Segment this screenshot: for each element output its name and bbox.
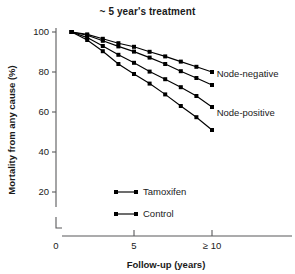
y-tick-label: 60 bbox=[38, 106, 49, 117]
series-line bbox=[72, 32, 212, 130]
chart-tick-labels: 2040608010005≥ 10 bbox=[33, 26, 221, 251]
mortality-line-chart: 2040608010005≥ 10 Node-negativeNode-posi… bbox=[0, 0, 295, 274]
y-tick-label: 100 bbox=[33, 26, 49, 37]
chart-annotations: Node-negativeNode-positive bbox=[217, 68, 279, 118]
series-marker bbox=[132, 50, 136, 54]
series-line bbox=[72, 32, 212, 72]
series-marker bbox=[132, 72, 136, 76]
curve-annotation: Node-negative bbox=[217, 68, 279, 79]
curve-annotation: Node-positive bbox=[217, 107, 275, 118]
series-marker bbox=[116, 62, 120, 66]
series-marker bbox=[116, 53, 120, 57]
series-marker bbox=[132, 45, 136, 49]
series-marker bbox=[101, 44, 105, 48]
series-marker bbox=[194, 65, 198, 69]
chart-series-group bbox=[70, 30, 214, 132]
series-marker bbox=[210, 105, 214, 109]
legend-label: Control bbox=[143, 208, 174, 219]
x-tick-label: ≥ 10 bbox=[203, 240, 221, 251]
legend-marker bbox=[114, 212, 118, 216]
series-marker bbox=[194, 76, 198, 80]
series-marker bbox=[210, 83, 214, 87]
chart-series bbox=[70, 30, 214, 132]
legend-label: Tamoxifen bbox=[143, 186, 186, 197]
series-marker bbox=[148, 70, 152, 74]
y-tick-label: 40 bbox=[38, 146, 49, 157]
y-axis-title: Mortality from any cause (%) bbox=[6, 65, 17, 194]
chart-figure: ~ 5 year's treatment 2040608010005≥ 10 N… bbox=[0, 0, 295, 274]
legend-marker bbox=[114, 190, 118, 194]
chart-legend: TamoxifenControl bbox=[114, 186, 186, 219]
series-marker bbox=[101, 49, 105, 53]
series-marker bbox=[179, 60, 183, 64]
series-marker bbox=[148, 82, 152, 86]
y-axis-break-foot bbox=[56, 217, 62, 228]
legend-marker bbox=[134, 190, 138, 194]
series-marker bbox=[210, 70, 214, 74]
series-marker bbox=[163, 54, 167, 58]
x-axis-title: Follow-up (years) bbox=[127, 259, 206, 270]
y-tick-label: 80 bbox=[38, 66, 49, 77]
series-marker bbox=[148, 56, 152, 60]
y-tick-label: 20 bbox=[38, 186, 49, 197]
series-marker bbox=[163, 92, 167, 96]
series-marker bbox=[70, 30, 74, 34]
series-marker bbox=[210, 128, 214, 132]
series-marker bbox=[163, 62, 167, 66]
series-marker bbox=[101, 39, 105, 43]
series-marker bbox=[179, 85, 183, 89]
series-marker bbox=[148, 50, 152, 54]
series-marker bbox=[163, 77, 167, 81]
series-marker bbox=[116, 44, 120, 48]
series-marker bbox=[194, 94, 198, 98]
series-marker bbox=[132, 61, 136, 65]
series-marker bbox=[179, 104, 183, 108]
legend-marker bbox=[134, 212, 138, 216]
series-marker bbox=[179, 69, 183, 73]
series-marker bbox=[194, 115, 198, 119]
x-tick-label: 5 bbox=[131, 240, 136, 251]
chart-series bbox=[70, 30, 214, 109]
x-tick-label: 0 bbox=[53, 240, 58, 251]
series-marker bbox=[85, 38, 89, 42]
